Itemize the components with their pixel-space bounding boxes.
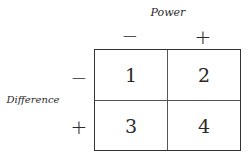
cell-4: 4 [168,101,240,151]
row-axis-title: Difference [4,94,62,105]
row-level-plus: + [69,117,89,137]
cell-2: 2 [168,50,240,100]
column-axis-title: Power [138,6,198,19]
two-by-two-grid: 1 2 3 4 [94,49,241,151]
column-level-plus: + [193,27,213,47]
row-level-minus: − [69,68,89,88]
column-level-minus: − [120,26,140,46]
cell-1: 1 [95,50,167,100]
cell-3: 3 [95,101,167,151]
